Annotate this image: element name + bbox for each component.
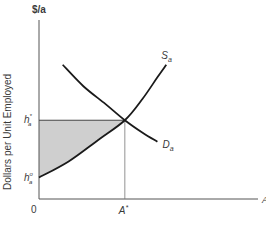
y-tick-label-0: h*a [24,113,33,127]
supply-curve-label: Sa [161,50,172,63]
x-axis-title: A [261,195,266,205]
surplus-shaded-area [39,120,125,177]
chart: SaDa $/a Dollars per Unit Employed 0 A h… [0,0,266,226]
y-unit-label: $/a [32,4,46,15]
demand-curve-label: Da [162,139,173,152]
y-axis-title: Dollars per Unit Employed [2,74,13,190]
equilibrium-x-label: A* [118,204,129,216]
y-tick-label-1: hoa [24,171,34,185]
origin-label: 0 [31,204,37,215]
